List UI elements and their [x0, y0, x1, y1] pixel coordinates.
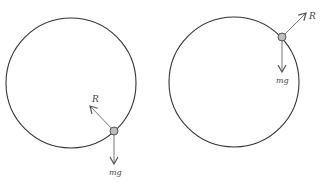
right-reaction-arrow: [282, 13, 306, 37]
right-weight-label: mg: [276, 76, 289, 85]
left-reaction-label: R: [91, 94, 99, 104]
circular-motion-diagram: R mg R mg: [0, 0, 321, 182]
right-reaction-label: R: [308, 11, 316, 21]
left-weight-label: mg: [109, 168, 122, 177]
left-diagram: R mg: [6, 18, 136, 177]
left-particle: [110, 127, 118, 135]
right-particle: [278, 33, 286, 41]
right-diagram: R mg: [169, 11, 316, 147]
left-reaction-arrow: [90, 106, 114, 131]
